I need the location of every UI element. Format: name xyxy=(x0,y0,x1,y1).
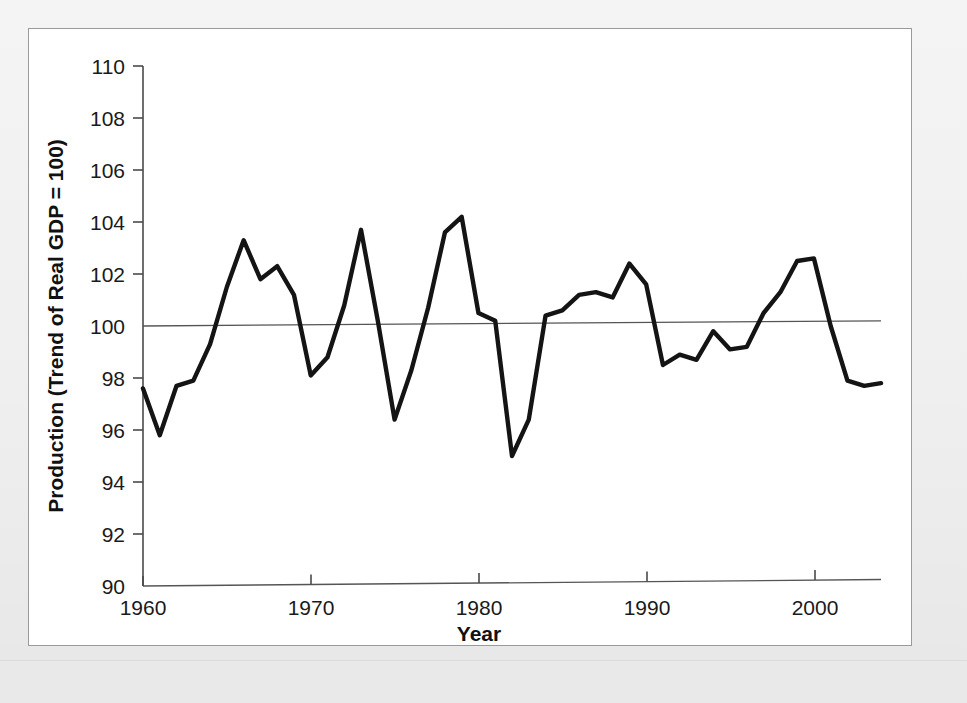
x-tick-label-1970: 1970 xyxy=(288,596,335,619)
line-chart: 110 108 106 104 102 100 98 96 94 92 90 xyxy=(29,29,911,645)
page-bottom-band xyxy=(0,660,967,703)
y-axis-tick-labels: 110 108 106 104 102 100 98 96 94 92 90 xyxy=(90,55,125,598)
y-tick-label-108: 108 xyxy=(90,107,125,130)
y-tick-label-100: 100 xyxy=(90,315,125,338)
y-tick-label-106: 106 xyxy=(90,159,125,182)
trend-reference-line-100 xyxy=(143,321,881,326)
y-tick-label-98: 98 xyxy=(102,367,125,390)
x-axis-tick-labels: 1960 1970 1980 1990 2000 xyxy=(120,596,839,619)
y-axis-ticks xyxy=(133,66,143,534)
x-tick-label-1960: 1960 xyxy=(120,596,167,619)
y-tick-label-90: 90 xyxy=(102,575,125,598)
chart-card: 110 108 106 104 102 100 98 96 94 92 90 xyxy=(28,28,912,646)
y-axis-title: Production (Trend of Real GDP = 100) xyxy=(44,139,67,513)
figure-root: 110 108 106 104 102 100 98 96 94 92 90 xyxy=(0,0,967,703)
x-tick-label-2000: 2000 xyxy=(792,596,839,619)
x-axis-title: Year xyxy=(457,622,501,645)
production-trend-line xyxy=(143,217,881,456)
x-tick-label-1980: 1980 xyxy=(456,596,503,619)
y-tick-label-92: 92 xyxy=(102,523,125,546)
y-tick-label-96: 96 xyxy=(102,419,125,442)
y-tick-label-104: 104 xyxy=(90,211,125,234)
y-tick-label-110: 110 xyxy=(92,55,125,78)
baseline-reference-line xyxy=(143,580,881,587)
y-tick-label-102: 102 xyxy=(90,263,125,286)
x-tick-label-1990: 1990 xyxy=(624,596,671,619)
y-tick-label-94: 94 xyxy=(102,471,126,494)
